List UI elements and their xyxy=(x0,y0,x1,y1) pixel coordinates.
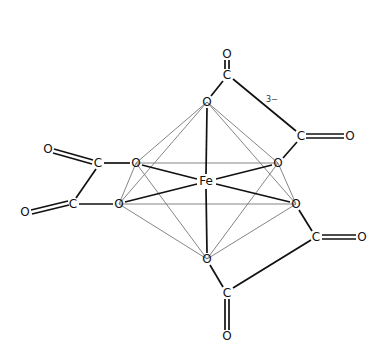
svg-text:O: O xyxy=(202,95,211,109)
svg-text:O: O xyxy=(202,252,211,266)
fe-center-label: Fe xyxy=(199,174,213,188)
svg-text:O: O xyxy=(43,142,52,156)
svg-text:O: O xyxy=(357,230,366,244)
svg-text:O: O xyxy=(273,156,282,170)
charge-label: 3− xyxy=(266,95,278,104)
svg-text:C: C xyxy=(297,129,305,143)
svg-text:O: O xyxy=(20,205,29,219)
svg-text:O: O xyxy=(291,197,300,211)
svg-text:O: O xyxy=(345,129,354,143)
iron-oxalate-structure: O C O C O O O C O O C O O C O O C O Fe 3… xyxy=(0,0,385,356)
svg-text:C: C xyxy=(69,197,77,211)
oxalate-bonds xyxy=(31,60,356,330)
svg-text:O: O xyxy=(222,329,231,343)
svg-text:C: C xyxy=(312,230,320,244)
svg-text:O: O xyxy=(131,156,140,170)
svg-text:C: C xyxy=(223,68,231,82)
svg-text:O: O xyxy=(222,47,231,61)
svg-text:O: O xyxy=(114,197,123,211)
svg-text:C: C xyxy=(223,286,231,300)
svg-text:C: C xyxy=(94,156,102,170)
atom-labels: O C O C O O O C O O C O O C O O C O xyxy=(20,47,366,343)
